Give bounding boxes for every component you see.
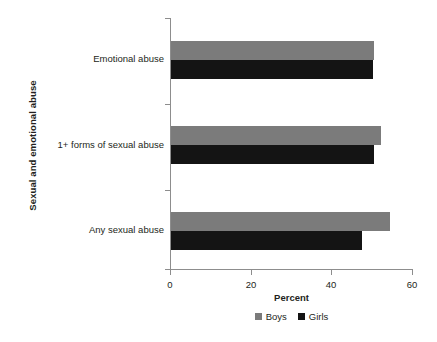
bar-girls-one-plus-forms-of-sexual-abuse xyxy=(171,145,374,164)
x-axis-title: Percent xyxy=(170,292,413,303)
y-axis-tick xyxy=(165,18,170,19)
legend-swatch-icon xyxy=(298,313,305,320)
legend-label-girls: Girls xyxy=(309,311,329,322)
x-axis-tick xyxy=(170,270,171,275)
bar-boys-one-plus-forms-of-sexual-abuse xyxy=(171,126,381,145)
bar-girls-emotional-abuse xyxy=(171,60,373,79)
x-axis-tick-label-0: 0 xyxy=(167,279,172,290)
bar-girls-any-sexual-abuse xyxy=(171,231,362,250)
x-axis-tick xyxy=(251,270,252,275)
y-axis-tick xyxy=(165,190,170,191)
x-axis-tick-label-40: 40 xyxy=(326,279,337,290)
bar-boys-emotional-abuse xyxy=(171,41,374,60)
x-axis-tick xyxy=(412,270,413,275)
x-axis-line xyxy=(170,269,413,270)
legend: Boys Girls xyxy=(170,311,413,322)
plot-area: 0 20 40 60 xyxy=(170,18,413,270)
category-label-emotional-abuse: Emotional abuse xyxy=(24,53,164,64)
bar-boys-any-sexual-abuse xyxy=(171,212,390,231)
legend-item-boys: Boys xyxy=(255,311,287,322)
legend-label-boys: Boys xyxy=(266,311,287,322)
legend-swatch-icon xyxy=(255,313,262,320)
category-label-one-plus-forms-of-sexual-abuse: 1+ forms of sexual abuse xyxy=(24,139,164,150)
y-axis-tick xyxy=(165,104,170,105)
category-label-any-sexual-abuse: Any sexual abuse xyxy=(24,224,164,235)
legend-item-girls: Girls xyxy=(298,311,329,322)
x-axis-tick-label-60: 60 xyxy=(407,279,418,290)
category-label-group: Emotional abuse 1+ forms of sexual abuse… xyxy=(22,0,164,342)
bar-chart: Sexual and emotional abuse Emotional abu… xyxy=(0,0,437,342)
x-axis-tick xyxy=(331,270,332,275)
x-axis-tick-label-20: 20 xyxy=(246,279,257,290)
